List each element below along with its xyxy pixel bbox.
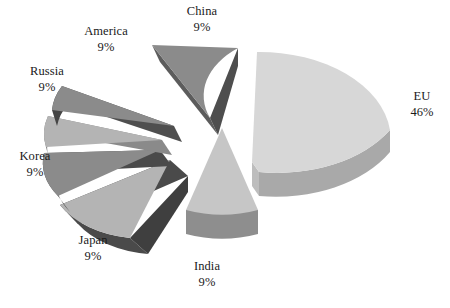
pie-label-eu-value: 46%	[400, 104, 444, 120]
pie-slice-china[interactable]	[152, 45, 238, 135]
pie-slice-india-top	[186, 128, 258, 215]
pie-label-russia-name: Russia	[12, 63, 82, 79]
pie-label-eu: EU 46%	[400, 88, 444, 120]
pie-slice-india[interactable]	[186, 128, 258, 239]
pie-label-india: India 9%	[172, 258, 242, 290]
pie-label-america-value: 9%	[66, 39, 146, 55]
pie-label-korea-name: Korea	[2, 148, 68, 164]
pie-label-japan: Japan 9%	[58, 232, 128, 264]
pie-label-russia-value: 9%	[12, 79, 82, 95]
pie-chart: China 9% America 9% Russia 9% Korea 9% J…	[0, 0, 450, 308]
pie-label-japan-name: Japan	[58, 232, 128, 248]
pie-label-china-name: China	[167, 3, 237, 19]
pie-label-china: China 9%	[167, 3, 237, 35]
pie-label-korea: Korea 9%	[2, 148, 68, 180]
pie-label-japan-value: 9%	[58, 248, 128, 264]
pie-label-korea-value: 9%	[2, 164, 68, 180]
pie-label-india-name: India	[172, 258, 242, 274]
pie-slice-eu[interactable]	[252, 52, 390, 197]
pie-label-china-value: 9%	[167, 19, 237, 35]
pie-label-america: America 9%	[66, 23, 146, 55]
pie-label-russia: Russia 9%	[12, 63, 82, 95]
pie-label-america-name: America	[66, 23, 146, 39]
pie-label-eu-name: EU	[400, 88, 444, 104]
pie-label-india-value: 9%	[172, 274, 242, 290]
